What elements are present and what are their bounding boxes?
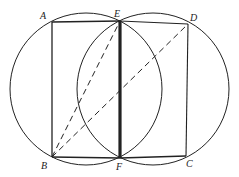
- segment-AE: [52, 21, 120, 22]
- left-circle: [10, 13, 162, 165]
- segment-BF: [52, 157, 120, 158]
- label-D: D: [189, 12, 198, 23]
- label-C: C: [186, 158, 193, 169]
- segment-FC: [120, 156, 186, 158]
- right-circle: [77, 13, 229, 165]
- label-B: B: [41, 160, 47, 171]
- segment-DC: [186, 24, 188, 156]
- label-A: A: [39, 10, 47, 21]
- label-E: E: [113, 8, 120, 19]
- label-F: F: [115, 161, 123, 172]
- segment-ED: [120, 21, 188, 24]
- geometry-diagram: A E D B F C: [0, 0, 239, 177]
- dashed-BE: [52, 21, 120, 157]
